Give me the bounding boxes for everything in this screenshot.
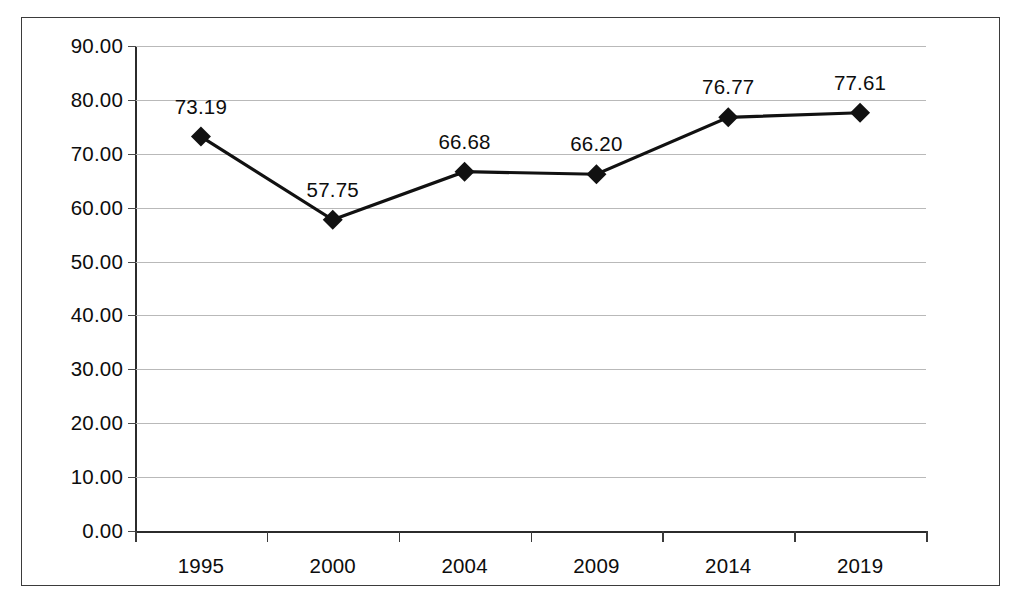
data-point-label: 66.20: [570, 132, 622, 156]
x-axis-tick-label: 2004: [441, 554, 487, 578]
data-point-label: 57.75: [307, 178, 359, 202]
data-point-label: 76.77: [702, 75, 754, 99]
x-axis-tick-label: 2009: [573, 554, 619, 578]
data-point-marker: [191, 127, 211, 147]
y-axis-tick-label: 90.00: [71, 34, 123, 58]
y-axis-tick-label: 10.00: [71, 465, 123, 489]
x-axis-tick-label: 2019: [837, 554, 883, 578]
data-point-marker: [455, 162, 475, 182]
data-point-marker: [718, 107, 738, 127]
y-axis-tick-label: 80.00: [71, 88, 123, 112]
y-axis-tick-label: 20.00: [71, 411, 123, 435]
plot-area: 0.0010.0020.0030.0040.0050.0060.0070.008…: [135, 46, 926, 531]
data-point-label: 73.19: [175, 95, 227, 119]
data-point-marker: [850, 103, 870, 123]
y-axis-tick-label: 70.00: [71, 142, 123, 166]
x-axis-tick: [926, 531, 928, 542]
data-point-marker: [586, 164, 606, 184]
series-line-markers: [135, 46, 926, 533]
y-axis-tick-label: 50.00: [71, 250, 123, 274]
data-point-marker: [323, 210, 343, 230]
y-axis-tick-label: 30.00: [71, 357, 123, 381]
x-axis-tick-label: 1995: [178, 554, 224, 578]
y-axis-tick-label: 60.00: [71, 196, 123, 220]
data-point-label: 66.68: [438, 130, 490, 154]
x-axis-tick-label: 2000: [310, 554, 356, 578]
data-point-label: 77.61: [834, 71, 886, 95]
y-axis-tick-label: 0.00: [82, 519, 123, 543]
x-axis-tick-label: 2014: [705, 554, 751, 578]
chart-figure: 0.0010.0020.0030.0040.0050.0060.0070.008…: [21, 17, 1000, 586]
y-axis-tick-label: 40.00: [71, 303, 123, 327]
series-line: [201, 113, 860, 220]
